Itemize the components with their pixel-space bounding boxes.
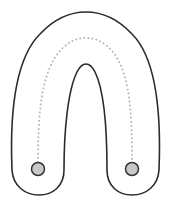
right-end-circle: [126, 163, 139, 176]
left-end-circle: [32, 163, 45, 176]
u-tube-diagram: [0, 0, 171, 208]
